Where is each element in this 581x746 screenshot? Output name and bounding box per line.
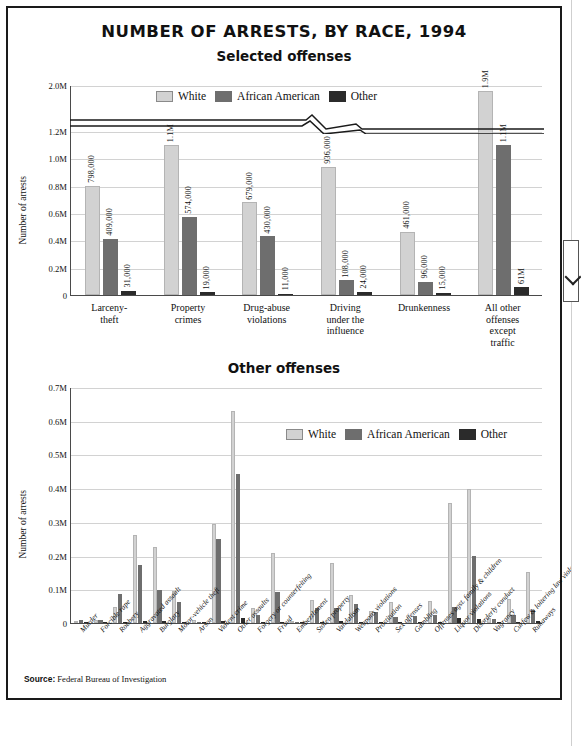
legend-item-african-american: African American (215, 90, 320, 102)
chart1-bar (514, 287, 529, 295)
page-title: NUMBER OF ARRESTS, BY RACE, 1994 (8, 22, 560, 41)
chart2-y-tick: 0.5M (49, 450, 71, 460)
chart2-y-tick: 0.4M (49, 484, 71, 494)
chart2-gridline (71, 388, 542, 389)
chart1-category-label: All otheroffensesexcepttraffic (457, 302, 548, 348)
legend-item-white: White (156, 90, 206, 102)
chart1-y-tick: 0.8M (49, 182, 71, 192)
source-label: Source: (24, 674, 55, 684)
chart1-bar (121, 291, 136, 295)
chart1-bar-value-label: 11,000 (281, 267, 290, 290)
legend-label-white: White (178, 90, 206, 102)
legend2-item-white: White (286, 428, 336, 440)
source-text: Federal Bureau of Investigation (57, 674, 166, 684)
chart1-bar-value-label: 15,000 (438, 266, 447, 289)
chart1-bar (321, 167, 336, 295)
page-edge-strip (571, 0, 581, 746)
chart1-gridline (71, 187, 542, 188)
chart2-bar (231, 411, 235, 623)
chart2-bar (212, 524, 216, 623)
chart1-category-label: Propertycrimes (143, 302, 234, 325)
chart2-y-axis-label: Number of arrests (18, 490, 28, 559)
chart1-bar (278, 294, 293, 296)
chart1-bar-value-label: 430,000 (263, 206, 272, 234)
chart1-bar-value-label: 24,000 (359, 265, 368, 288)
chart1-bar (85, 186, 100, 295)
legend-label-african-american: African American (237, 90, 320, 102)
chart2-bar (467, 489, 471, 623)
content-frame: NUMBER OF ARRESTS, BY RACE, 1994 Selecte… (6, 6, 562, 700)
chart1-bar (103, 239, 118, 295)
legend-label-other: Other (351, 90, 377, 102)
chart1-y-tick: 1.2M (49, 127, 71, 137)
chart1-category-label: Larceny-theft (64, 302, 155, 325)
chart1-bar-value-label: 19,000 (202, 266, 211, 289)
chart1-plot-area: 00.2M0.4M0.6M0.8M1.0M1.2M2.0M798,000409,… (70, 86, 542, 296)
chart1-bar (242, 202, 257, 295)
chart1-bar-value-label: 108,000 (341, 250, 350, 278)
other-offenses-chart: Number of arrests 00.1M0.2M0.3M0.4M0.5M0… (8, 380, 560, 700)
chart2-y-tick: 0.6M (49, 417, 71, 427)
chart1-bar (357, 292, 372, 295)
chart2-gridline (71, 422, 542, 423)
chart1-gridline (71, 159, 542, 160)
legend2-label-other: Other (481, 428, 507, 440)
chart2-gridline (71, 455, 542, 456)
chart1-bar (182, 217, 197, 295)
chart1-gridline (71, 86, 542, 87)
chart1-category-label: Drunkenness (379, 302, 470, 314)
legend2-swatch-white (286, 429, 303, 440)
chart1-legend: White African American Other (156, 90, 377, 102)
legend2-item-other: Other (459, 428, 507, 440)
chart2-title: Other offenses (8, 360, 560, 376)
legend-swatch-white (156, 91, 173, 102)
chart1-gridline (71, 132, 542, 133)
chart2-y-tick: 0 (63, 619, 71, 629)
chart1-y-tick: 0.6M (49, 209, 71, 219)
chart1-bar (200, 292, 215, 295)
chart1-bar-value-label: 61M (517, 268, 526, 284)
chart1-bar (496, 145, 511, 295)
chart1-category-label: Drivingunder theinfluence (300, 302, 391, 337)
chart1-bar (478, 91, 493, 295)
chart2-y-tick: 0.1M (49, 585, 71, 595)
chart1-bar-value-label: 96,000 (420, 255, 429, 278)
legend2-item-african-american: African American (345, 428, 450, 440)
chart1-title: Selected offenses (8, 48, 560, 64)
chart1-y-tick: 0.2M (49, 264, 71, 274)
chart2-bar (216, 539, 220, 623)
page-root: NUMBER OF ARRESTS, BY RACE, 1994 Selecte… (0, 0, 581, 746)
legend2-label-african-american: African American (367, 428, 450, 440)
chart1-bar-value-label: 574,000 (184, 186, 193, 214)
selected-offenses-chart: Number of arrests 00.2M0.4M0.6M0.8M1.0M1… (8, 76, 560, 356)
legend-swatch-african-american (215, 91, 232, 102)
chart1-bar-value-label: 936,000 (323, 136, 332, 164)
chart1-bar (400, 232, 415, 295)
chart1-bar-value-label: 679,000 (245, 172, 254, 200)
chart1-bar-value-label: 461,000 (402, 201, 411, 229)
chart1-gridline (71, 214, 542, 215)
source-note: Source: Federal Bureau of Investigation (24, 674, 166, 684)
chart2-y-tick: 0.3M (49, 518, 71, 528)
chart1-bar-value-label: 1.9M (481, 70, 490, 88)
chart1-y-tick: 1.0M (49, 154, 71, 164)
legend2-label-white: White (308, 428, 336, 440)
chart1-bar (436, 293, 451, 295)
chart1-y-axis-label: Number of arrests (18, 176, 28, 245)
chart1-y-tick: 2.0M (49, 81, 71, 91)
chart2-legend: White African American Other (286, 428, 507, 440)
legend-swatch-other (329, 91, 346, 102)
chart1-bar-value-label: 1.1M (166, 124, 175, 142)
chart1-bar (164, 145, 179, 295)
chart1-bar (339, 280, 354, 295)
chart1-bar (418, 282, 433, 295)
chart1-category-label: Drug-abuseviolations (221, 302, 312, 325)
chart1-bar-value-label: 409,000 (105, 208, 114, 236)
chart1-y-tick: 0.4M (49, 236, 71, 246)
legend-item-other: Other (329, 90, 377, 102)
chart2-y-tick: 0.7M (49, 383, 71, 393)
chart1-bar-value-label: 798,000 (87, 155, 96, 183)
chart1-bar-value-label: 31,000 (123, 264, 132, 287)
chart1-y-tick: 0 (63, 291, 71, 301)
chart1-bar (260, 236, 275, 295)
